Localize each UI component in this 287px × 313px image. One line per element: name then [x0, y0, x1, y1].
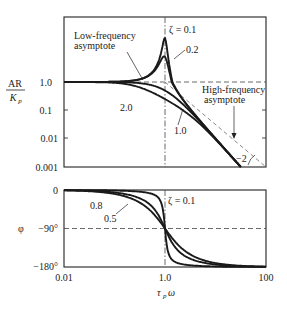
zeta-0.2-label: 0.2 [186, 44, 199, 55]
amplitude-ratio-chart: 1.0 0.1 0.01 0.001 AR K p ζ = 0.1 0.2 Lo… [6, 17, 266, 173]
zeta-0.1-label: ζ = 0.1 [169, 24, 196, 36]
zeta-1.0-label: 1.0 [174, 125, 187, 136]
phase-zeta-0.1-label: ζ = 0.1 [168, 195, 195, 207]
phase-chart: 0 −90° −180° φ ζ = 0.1 0.8 0.5 0.01 1.0 … [18, 185, 273, 300]
phase-ytick-180: −180° [33, 261, 58, 272]
xtick-1.0: 1.0 [159, 272, 172, 283]
xtick-100: 100 [259, 272, 274, 283]
bode-plot-figure: 1.0 0.1 0.01 0.001 AR K p ζ = 0.1 0.2 Lo… [0, 0, 287, 313]
phase-zeta-0.8-label: 0.8 [90, 200, 103, 211]
ar-ytick-0.01: 0.01 [41, 133, 59, 144]
svg-text:K: K [9, 92, 18, 103]
ar-ytick-0.1: 0.1 [40, 105, 53, 116]
phase-ytick-0: 0 [53, 185, 58, 196]
svg-text:ω: ω [168, 287, 175, 298]
xtick-0.01: 0.01 [55, 272, 73, 283]
ar-curve-zeta-0.2 [64, 56, 241, 166]
ar-ytick-1: 1.0 [40, 77, 53, 88]
ar-ytick-0.001: 0.001 [36, 162, 59, 173]
high-frequency-label-2: asymptote [204, 94, 246, 105]
slope-label: −2 [236, 153, 247, 164]
zeta-2.0-label: 2.0 [120, 102, 133, 113]
phase-ylabel: φ [18, 223, 24, 234]
phase-zeta-0.5-label: 0.5 [104, 213, 117, 224]
low-frequency-label-2: asymptote [74, 40, 116, 51]
phase-ytick-90: −90° [38, 223, 58, 234]
svg-text:AR: AR [8, 78, 22, 89]
svg-text:p: p [17, 97, 22, 105]
svg-text:τ: τ [157, 287, 161, 298]
ar-ylabel: AR K p [6, 78, 25, 105]
low-frequency-pointer [127, 52, 143, 80]
svg-text:p: p [162, 292, 167, 300]
x-axis-label: τ p ω [157, 287, 175, 300]
